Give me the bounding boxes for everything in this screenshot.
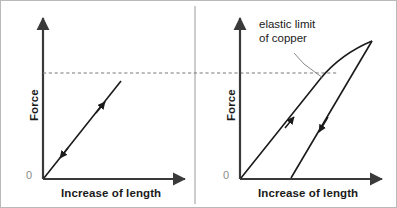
- left-x-axis-label: Increase of length: [61, 187, 161, 199]
- graph-drawing: [1, 1, 397, 208]
- left-elastic-line: [44, 81, 121, 178]
- right-unload-arrow: [319, 117, 328, 132]
- right-loading-curve: [241, 41, 372, 178]
- right-origin-label: 0: [223, 169, 229, 181]
- annotation-leader-line: [294, 53, 323, 78]
- right-y-axis-label: Force: [225, 89, 237, 121]
- left-unload-arrow: [60, 148, 68, 158]
- right-x-axis-label: Increase of length: [258, 187, 358, 199]
- left-y-axis-label: Force: [28, 89, 40, 121]
- annotation-line-1: elastic limit: [259, 17, 315, 31]
- annotation-line-2: of copper: [259, 31, 315, 45]
- figure-container: Increase of length Force 0 Increase of l…: [0, 0, 397, 208]
- right-unloading-line: [291, 41, 372, 178]
- elastic-limit-annotation: elastic limit of copper: [259, 17, 315, 45]
- left-load-arrow: [96, 102, 105, 113]
- left-origin-label: 0: [26, 169, 32, 181]
